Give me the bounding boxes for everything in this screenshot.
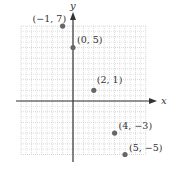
point-label: (4, −3) <box>119 120 153 131</box>
coordinate-plane: x y (−1, 7)(0, 5)(2, 1)(4, −3)(5, −5) <box>0 0 176 171</box>
data-point: (4, −3) <box>112 120 152 136</box>
axes: x y <box>16 0 167 162</box>
point-marker-icon <box>70 45 75 50</box>
x-axis-label: x <box>161 95 167 106</box>
grid <box>21 26 146 154</box>
point-label: (0, 5) <box>77 34 103 45</box>
point-marker-icon <box>91 88 96 93</box>
x-axis-arrow-icon <box>149 98 157 104</box>
point-label: (5, −5) <box>129 142 163 153</box>
point-marker-icon <box>112 131 117 136</box>
data-point: (5, −5) <box>122 142 162 158</box>
y-axis-label: y <box>69 0 76 11</box>
point-marker-icon <box>122 152 127 157</box>
point-label: (2, 1) <box>97 74 123 85</box>
point-marker-icon <box>60 24 65 29</box>
y-axis-arrow-icon <box>70 12 76 20</box>
point-label: (−1, 7) <box>33 13 67 24</box>
